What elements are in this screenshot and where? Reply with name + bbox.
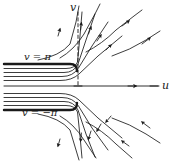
- lower-boundary-label: v = −π: [22, 108, 57, 118]
- streamline-plot: [0, 0, 177, 162]
- arrow-outer-upper-3: [122, 21, 129, 26]
- arrow-lower-4: [106, 116, 111, 122]
- arrow-lower-2: [89, 131, 92, 139]
- arrow-outer-upper-4: [142, 38, 150, 44]
- arrow-outer-lower-1: [58, 139, 60, 146]
- arrow-lower-1: [81, 133, 82, 141]
- streamline-outer-lower-4: [112, 118, 160, 143]
- flow-field-figure: u v v = π v = −π: [0, 0, 177, 162]
- streamline-outer-lower-2: [60, 116, 96, 158]
- streamline-outer-upper-4: [112, 31, 160, 56]
- upper-boundary-label: v = π: [24, 52, 51, 62]
- upper-slit-boundary: [4, 64, 77, 71]
- arrow-outer-lower-4: [142, 122, 150, 128]
- streamline-outer-lower-1: [38, 114, 79, 160]
- arrow-upper-4: [106, 45, 111, 50]
- arrow-outer-lower-3: [122, 141, 129, 146]
- u-axis-label: u: [162, 80, 169, 91]
- arrow-outer-upper-1: [58, 29, 60, 36]
- streamline-upper-4: [4, 36, 122, 81]
- v-axis-label: v: [70, 2, 76, 13]
